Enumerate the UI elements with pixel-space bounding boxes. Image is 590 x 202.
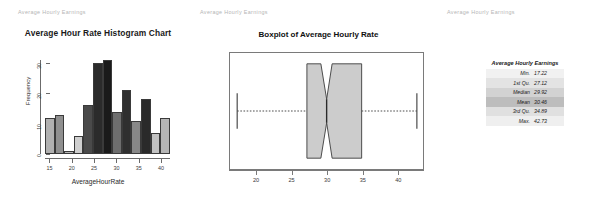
histogram-x-tick <box>116 159 117 163</box>
histogram-panel: Average Hour Rate Histogram Chart Freque… <box>0 22 196 202</box>
histogram-y-tick-label: 0 <box>36 154 42 157</box>
boxplot-box <box>307 64 362 158</box>
histogram-x-tick <box>139 159 140 163</box>
boxplot-x-tick <box>292 171 293 175</box>
stats-row: Mean30.46 <box>486 97 564 107</box>
stats-row: Min.17.22 <box>486 69 564 79</box>
stats-row: 1st Qu.27.12 <box>486 78 564 88</box>
histogram-bar <box>141 99 151 154</box>
histogram-x-tick-label: 40 <box>158 165 164 171</box>
histogram-bar <box>103 60 113 154</box>
stats-row-label: 1st Qu. <box>513 80 534 86</box>
stats-row-label: 3rd Qu. <box>513 108 534 114</box>
boxplot-x-tick-label: 20 <box>253 177 259 183</box>
histogram-bar <box>151 133 161 154</box>
histogram-x-tick <box>161 159 162 163</box>
histogram-bar <box>93 63 103 154</box>
stats-row-value: 30.46 <box>534 99 554 105</box>
histogram-plot-area <box>45 60 170 154</box>
histogram-bar <box>160 118 170 154</box>
boxplot-x-tick-label: 40 <box>395 177 401 183</box>
boxplot-plot-area <box>229 52 424 170</box>
histogram-x-tick <box>49 159 50 163</box>
boxplot-x-tick-label: 30 <box>324 177 330 183</box>
boxplot-x-tick <box>327 171 328 175</box>
histogram-bar <box>55 115 65 154</box>
histogram-bar <box>74 136 84 154</box>
stats-row: 3rd Qu.34.89 <box>486 107 564 117</box>
stats-row-label: Median <box>513 89 534 95</box>
page-header-left: Average Hourly Earnings <box>18 9 86 15</box>
histogram-bars <box>45 60 170 154</box>
histogram-bar <box>45 118 55 154</box>
histogram-y-tick-label: 20 <box>36 93 42 99</box>
stats-table: Average Hourly Earnings Min.17.221st Qu.… <box>486 58 564 126</box>
stats-row-value: 17.22 <box>534 70 554 76</box>
histogram-x-tick-label: 35 <box>136 165 142 171</box>
stats-row: Median29.92 <box>486 88 564 98</box>
stats-row-value: 34.89 <box>534 108 554 114</box>
stats-table-caption: Average Hourly Earnings <box>486 58 564 69</box>
boxplot-x-tick <box>363 171 364 175</box>
stats-row-value: 27.12 <box>534 80 554 86</box>
boxplot-x-axis: 2025303540 <box>229 170 424 175</box>
histogram-bar <box>83 105 93 154</box>
page-header-middle: Average Hourly Earnings <box>200 9 268 15</box>
stats-row-value: 29.92 <box>534 89 554 95</box>
stats-row-label: Min. <box>520 70 534 76</box>
histogram-x-tick-label: 30 <box>113 165 119 171</box>
histogram-x-axis-title: AverageHourRate <box>0 178 196 185</box>
histogram-x-tick-label: 15 <box>46 165 52 171</box>
stats-row: Max.42.73 <box>486 116 564 126</box>
stats-row-value: 42.73 <box>534 118 554 124</box>
histogram-x-tick <box>94 159 95 163</box>
boxplot-x-tick-label: 25 <box>289 177 295 183</box>
boxplot-x-tick <box>398 171 399 175</box>
page-header-right: Average Hourly Earnings <box>447 9 515 15</box>
boxplot-x-tick <box>256 171 257 175</box>
histogram-bar <box>64 151 74 154</box>
stats-row-label: Max. <box>519 118 534 124</box>
histogram-bar <box>112 112 122 154</box>
boxplot-x-tick-label: 35 <box>360 177 366 183</box>
histogram-x-tick <box>72 159 73 163</box>
histogram-bar <box>131 121 141 154</box>
histogram-title: Average Hour Rate Histogram Chart <box>0 28 196 38</box>
histogram-x-axis: 152025303540 <box>45 158 170 163</box>
stats-panel: Average Hourly Earnings Min.17.221st Qu.… <box>441 22 590 202</box>
histogram-y-tick-label: 30 <box>36 63 42 69</box>
boxplot-graphic <box>230 53 423 169</box>
histogram-bar <box>122 90 132 154</box>
boxplot-panel: Boxplot of Average Hourly Rate 202530354… <box>196 22 441 202</box>
histogram-x-tick-label: 25 <box>91 165 97 171</box>
histogram-y-tick-label: 10 <box>36 124 42 130</box>
histogram-y-tick <box>46 154 50 155</box>
histogram-y-axis-title: Frequency <box>25 77 31 105</box>
boxplot-title: Boxplot of Average Hourly Rate <box>196 30 441 39</box>
stats-row-label: Mean <box>517 99 534 105</box>
stats-table-body: Min.17.221st Qu.27.12Median29.92Mean30.4… <box>486 69 564 126</box>
histogram-x-tick-label: 20 <box>69 165 75 171</box>
